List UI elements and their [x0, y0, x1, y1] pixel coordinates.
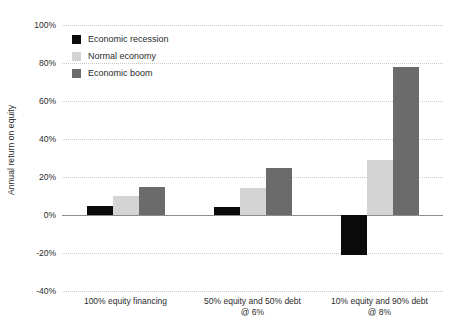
- x-tick-label-line: 50% equity and 50% debt: [189, 296, 316, 307]
- bar: [214, 207, 240, 215]
- legend-item[interactable]: Normal economy: [72, 51, 169, 61]
- legend-swatch-icon: [72, 69, 81, 78]
- chart-legend: Economic recessionNormal economyEconomic…: [72, 34, 169, 78]
- x-tick-label-line: 10% equity and 90% debt: [316, 296, 443, 307]
- gridline: [62, 291, 443, 292]
- y-tick-label: 40%: [10, 134, 56, 144]
- bar-chart: Annual return on equity 100%80%60%40%20%…: [0, 0, 451, 334]
- x-tick-label: 100% equity financing: [62, 296, 189, 307]
- legend-item-label: Normal economy: [88, 51, 156, 61]
- y-tick-label: -40%: [10, 286, 56, 296]
- bar: [341, 215, 367, 255]
- x-tick-label: 10% equity and 90% debt@ 8%: [316, 296, 443, 318]
- x-tick-label: 50% equity and 50% debt@ 6%: [189, 296, 316, 318]
- x-axis-tick-labels: 100% equity financing50% equity and 50% …: [62, 296, 443, 330]
- y-tick-label: 60%: [10, 96, 56, 106]
- y-tick-label: 20%: [10, 172, 56, 182]
- bar: [139, 187, 165, 216]
- x-tick-label-line: @ 6%: [189, 307, 316, 318]
- bar: [240, 188, 266, 215]
- y-tick-label: 100%: [10, 20, 56, 30]
- legend-swatch-icon: [72, 52, 81, 61]
- y-tick-label: -20%: [10, 248, 56, 258]
- legend-item-label: Economic recession: [88, 34, 169, 44]
- legend-item[interactable]: Economic recession: [72, 34, 169, 44]
- legend-swatch-icon: [72, 35, 81, 44]
- x-tick-label-line: 100% equity financing: [62, 296, 189, 307]
- y-tick-label: 80%: [10, 58, 56, 68]
- bar: [113, 196, 139, 215]
- x-tick-label-line: @ 8%: [316, 307, 443, 318]
- legend-item-label: Economic boom: [88, 68, 153, 78]
- y-tick-label: 0%: [10, 210, 56, 220]
- bar: [266, 168, 292, 216]
- bar: [367, 160, 393, 215]
- legend-item[interactable]: Economic boom: [72, 68, 169, 78]
- bar: [393, 67, 419, 215]
- bar: [87, 206, 113, 216]
